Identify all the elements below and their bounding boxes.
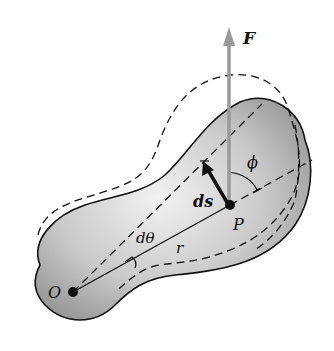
radius-label: r	[176, 239, 184, 257]
rigid-body	[35, 98, 310, 320]
dtheta-label: dθ	[136, 229, 155, 247]
phi-label: ϕ	[247, 153, 258, 172]
point-p-label: P	[232, 215, 244, 234]
ds-label: ds	[193, 192, 213, 211]
force-label: F	[242, 28, 257, 48]
origin-label: O	[48, 283, 61, 302]
force-arrow-head	[223, 27, 235, 46]
point-p-marker	[225, 200, 235, 210]
diagram-canvas: F P O ds ϕ dθ r	[0, 0, 334, 351]
origin-marker	[68, 287, 78, 297]
